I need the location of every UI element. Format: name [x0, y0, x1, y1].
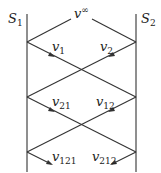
v2-label: v2 [100, 40, 113, 56]
v1-label: v1 [52, 40, 65, 56]
wall-s1-label: S1 [8, 12, 23, 28]
v12-label: v12 [96, 95, 115, 111]
v121-label: v121 [52, 150, 77, 166]
wall-s2-label: S2 [141, 12, 156, 28]
v-infinity-label: v∞ [74, 6, 89, 20]
reflection-diagram [0, 0, 161, 173]
v21-label: v21 [52, 95, 71, 111]
ray-vinf-left [27, 19, 71, 42]
ray-vinf-right [92, 19, 136, 42]
v212-label: v212 [92, 150, 117, 166]
